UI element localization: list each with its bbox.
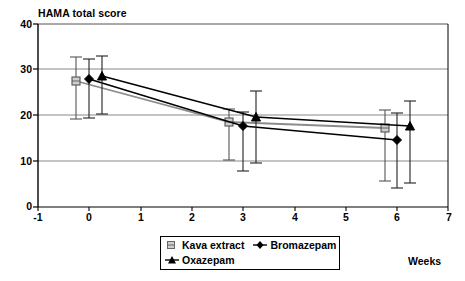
legend-label-kava-extract: Kava extract — [182, 239, 244, 251]
legend-label-oxazepam: Oxazepam — [182, 254, 235, 266]
triangle-marker-icon — [164, 254, 180, 266]
legend-row-2: Oxazepam — [164, 254, 243, 266]
square-marker-icon — [164, 239, 180, 251]
legend-label-bromazepam: Bromazepam — [270, 239, 336, 251]
diamond-marker-icon — [252, 239, 268, 251]
chart-container: HAMA total score 40 30 20 10 0 -1 0 1 2 … — [0, 0, 465, 281]
series-oxazepam — [96, 56, 416, 183]
series-kava-extract — [70, 57, 391, 181]
legend-item-kava-extract: Kava extract — [164, 239, 244, 251]
legend-row-1: Kava extract Bromazepam — [164, 239, 344, 251]
legend-item-bromazepam: Bromazepam — [252, 239, 336, 251]
chart-legend: Kava extract Bromazepam — [160, 236, 340, 270]
legend-item-oxazepam: Oxazepam — [164, 254, 235, 266]
axis-lines — [33, 24, 448, 211]
markers-kava — [72, 77, 389, 132]
x-axis-label: Weeks — [408, 255, 441, 267]
